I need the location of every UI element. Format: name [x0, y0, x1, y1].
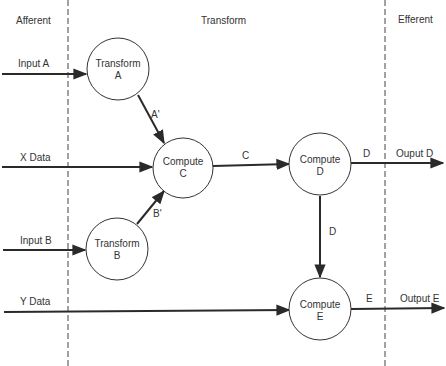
- region-label-efferent: Efferent: [398, 14, 433, 25]
- process-compute-c-id: C: [179, 168, 186, 179]
- process-transform-a-id: A: [115, 70, 122, 81]
- process-transform-a: Transform A: [87, 38, 149, 100]
- label-x-data: X Data: [20, 152, 51, 163]
- process-compute-e-id: E: [317, 311, 324, 322]
- label-a-prime: A': [151, 109, 160, 120]
- region-label-afferent: Afferent: [16, 15, 51, 26]
- label-input-a: Input A: [18, 58, 49, 69]
- flow-e-out: [351, 308, 444, 309]
- flow-c: [213, 164, 289, 166]
- label-input-b: Input B: [20, 235, 52, 246]
- label-b-prime: B': [153, 208, 162, 219]
- region-label-transform: Transform: [201, 15, 246, 26]
- label-output-d: Ouput D: [396, 148, 433, 159]
- process-compute-d-name: Compute: [300, 154, 341, 165]
- process-compute-c: Compute C: [153, 138, 213, 198]
- label-output-e: Output E: [400, 293, 440, 304]
- process-transform-b-id: B: [114, 250, 121, 261]
- process-compute-e-name: Compute: [300, 299, 341, 310]
- process-compute-c-name: Compute: [163, 156, 204, 167]
- process-transform-b: Transform B: [86, 218, 148, 280]
- label-d-down: D: [329, 226, 336, 237]
- data-flow-diagram: Afferent Transform Efferent Input A X Da…: [0, 0, 446, 366]
- process-transform-a-name: Transform: [95, 58, 140, 69]
- process-compute-d: Compute D: [289, 133, 351, 195]
- flow-y-data: [4, 310, 289, 312]
- label-c: C: [242, 150, 249, 161]
- process-compute-d-id: D: [316, 166, 323, 177]
- label-y-data: Y Data: [20, 296, 51, 307]
- process-compute-e: Compute E: [289, 278, 351, 340]
- process-transform-b-name: Transform: [94, 238, 139, 249]
- label-e: E: [366, 293, 373, 304]
- label-d-out: D: [363, 148, 370, 159]
